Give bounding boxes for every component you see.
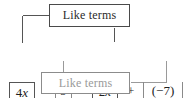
term-negative-7: (−7)	[143, 82, 183, 98]
term-negative-7-label: (−7)	[152, 83, 175, 99]
like-terms-box-top: Like terms	[49, 4, 130, 27]
expression-row: 4x + 9 + 2x + (−7)	[0, 40, 194, 62]
term-4x-label: 4x	[16, 85, 28, 99]
like-terms-box-top-label: Like terms	[63, 8, 117, 23]
term-4x: 4x	[9, 82, 35, 98]
like-terms-box-bottom-label: Like terms	[59, 76, 113, 91]
like-terms-box-bottom: Like terms	[41, 72, 130, 94]
like-terms-diagram: Like terms 4x + 9 + 2x + (−7) Like terms	[0, 0, 194, 98]
